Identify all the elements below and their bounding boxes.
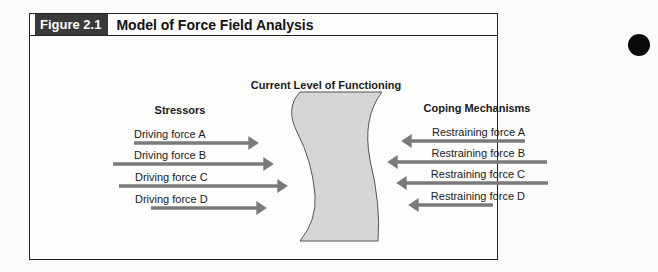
current-level-shape [292, 92, 382, 241]
driving-forces: Driving force A Driving force B Driving … [113, 128, 285, 208]
force-field-diagram: Current Level of Functioning Stressors C… [0, 0, 658, 272]
restraining-force-d-label: Restraining force D [431, 190, 525, 202]
restraining-force-c-label: Restraining force C [431, 168, 525, 180]
stressors-heading: Stressors [155, 104, 206, 116]
driving-force-a-label: Driving force A [134, 128, 206, 140]
coping-heading: Coping Mechanisms [424, 102, 531, 114]
restraining-force-b-label: Restraining force B [431, 147, 525, 159]
center-heading: Current Level of Functioning [251, 79, 401, 91]
driving-force-d-label: Driving force D [135, 193, 208, 205]
restraining-force-a-label: Restraining force A [432, 126, 526, 138]
restraining-forces: Restraining force A Restraining force B … [390, 126, 548, 205]
driving-force-c-label: Driving force C [135, 171, 208, 183]
driving-force-b-label: Driving force B [134, 149, 206, 161]
